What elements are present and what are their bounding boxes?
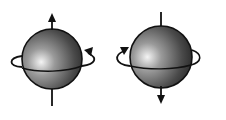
rotation-arrow-icon — [120, 47, 129, 55]
rotation-ring-front — [82, 53, 94, 66]
arrow-down-icon — [157, 95, 165, 104]
spin-diagram — [0, 0, 226, 120]
rotation-ring-back — [12, 56, 23, 67]
arrow-up-icon — [48, 13, 56, 22]
sphere-body — [22, 29, 82, 89]
sphere-body — [130, 26, 192, 88]
spin-down-sphere — [117, 12, 200, 104]
spin-up-sphere — [12, 13, 95, 106]
